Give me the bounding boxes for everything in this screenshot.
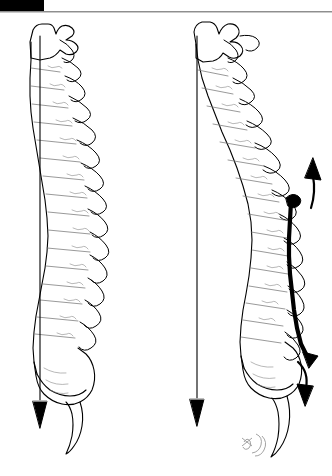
anterior-body-line [30,42,48,374]
posterior-tension-line [289,202,307,356]
spine-illustration [0,0,332,476]
disc-space-lines [198,70,288,343]
tension-line-upper-node [286,194,301,207]
sacrum-detail-marks [251,362,275,388]
posterior-spinous-line [60,40,109,350]
sacrum-detail-marks [44,368,68,394]
coccyx [66,402,83,454]
illustration-page: Lateral spine posture comparison with pl… [0,0,332,476]
cervical-vertebrae [30,24,78,60]
sacrum [34,348,95,405]
plumb-bob [33,401,47,428]
sacrum [241,342,302,399]
upward-arrow [305,158,321,208]
downward-arrow [297,362,313,406]
normal-spine-figure [30,24,109,454]
plumb-bob [190,399,204,426]
tension-line-lower-node [303,352,318,368]
artist-signature [242,434,266,456]
kyphotic-spine-figure [190,22,321,457]
cervical-vertebrae [194,22,243,62]
coccyx [271,396,290,457]
